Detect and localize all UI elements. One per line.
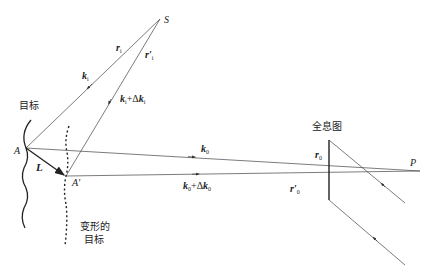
point-s-label: S [164,15,169,25]
ray-a-to-p [26,148,420,171]
k-i-label: ki [82,71,89,84]
r-i-prime-label: r′i [145,50,153,63]
k-0-delta-label: k0+Δk0 [183,181,211,194]
k-0-label: k0 [201,144,209,157]
deformed-target-label-2: 目标 [84,235,104,245]
r-0-prime-label: r′0 [290,184,300,197]
holography-diagram: S A A′ P 目标 变形的 目标 全息图 L ri r′i ki ki+Δk… [0,0,433,280]
reference-ray-lower [329,200,405,265]
point-a-prime-label: A′ [72,178,80,188]
diagram-lines [0,0,433,280]
r-0-label: r0 [315,150,322,163]
ray-s-to-a-prime [66,19,160,176]
target-label: 目标 [19,101,39,111]
r-i-label: ri [116,43,122,56]
k-i-delta-label: ki+Δki [120,94,145,107]
ray-s-to-a [26,19,160,148]
target-surface [22,120,31,228]
displacement-label: L [36,162,43,172]
point-p-label: P [410,158,416,168]
hologram-label: 全息图 [312,122,342,132]
point-a-label: A [14,146,20,156]
deformed-target-label-1: 变形的 [80,222,110,232]
displacement-vector [26,148,64,175]
deformed-target-surface [65,126,70,246]
